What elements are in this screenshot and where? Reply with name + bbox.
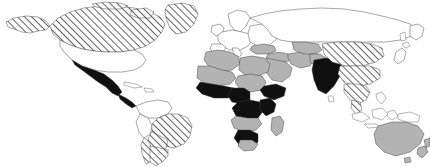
region-sri-lanka <box>328 96 334 102</box>
region-tasmania <box>404 157 411 163</box>
world-map-figure <box>0 0 430 167</box>
region-turkey <box>250 44 276 54</box>
world-map-canvas <box>0 0 430 167</box>
